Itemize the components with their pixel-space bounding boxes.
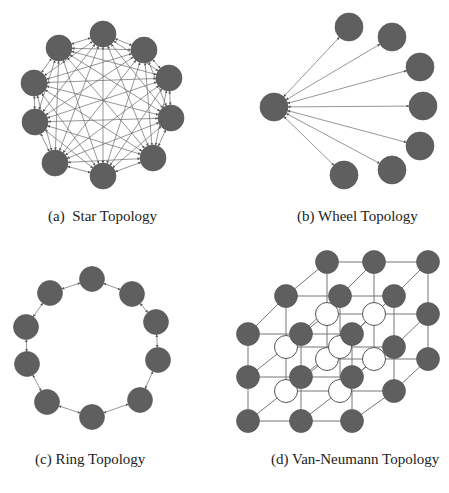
- edge: [33, 303, 43, 317]
- topology-figure: [0, 0, 449, 493]
- node: [21, 70, 47, 96]
- edge: [286, 114, 379, 164]
- edge: [59, 406, 80, 413]
- edge: [140, 303, 148, 312]
- node: [417, 348, 440, 371]
- edge: [145, 371, 153, 388]
- edge: [63, 60, 99, 163]
- node: [260, 93, 288, 121]
- node: [131, 37, 157, 63]
- edge: [104, 283, 121, 289]
- edge: [286, 44, 380, 100]
- node: [329, 285, 352, 308]
- edge: [68, 159, 140, 163]
- node: [15, 352, 40, 377]
- edge: [55, 61, 58, 150]
- node: [120, 282, 145, 307]
- node: [140, 145, 166, 171]
- node: [409, 92, 437, 120]
- node: [363, 251, 386, 274]
- node: [46, 35, 72, 61]
- node: [146, 348, 171, 373]
- node: [275, 285, 298, 308]
- node: [378, 156, 406, 184]
- edge: [115, 162, 141, 171]
- node: [90, 21, 116, 47]
- node: [406, 132, 434, 160]
- node: [330, 161, 358, 189]
- edge: [33, 375, 41, 391]
- node: [237, 366, 260, 389]
- node: [383, 285, 406, 308]
- node: [290, 410, 313, 433]
- edge: [71, 38, 90, 44]
- edge: [104, 404, 128, 413]
- node: [237, 410, 260, 433]
- caption-wheel: (b) Wheel Topology: [297, 208, 418, 225]
- node: [90, 163, 116, 189]
- panel-wheel: [260, 13, 437, 189]
- node: [417, 251, 440, 274]
- hollow-node: [363, 348, 386, 371]
- node: [237, 323, 260, 346]
- edge: [42, 59, 52, 73]
- edge: [47, 78, 156, 82]
- node: [42, 150, 68, 176]
- edge: [284, 117, 334, 165]
- node: [406, 53, 434, 81]
- panel-star: [21, 21, 184, 189]
- panel-vonneumann: [237, 251, 440, 433]
- edge: [170, 91, 171, 105]
- edge: [157, 334, 158, 347]
- node: [341, 323, 364, 346]
- node: [144, 310, 169, 335]
- hollow-node: [363, 303, 386, 326]
- node: [316, 251, 339, 274]
- edge: [153, 60, 161, 69]
- node: [156, 65, 182, 91]
- edge: [47, 86, 159, 115]
- node: [38, 281, 63, 306]
- edge: [158, 130, 165, 146]
- node: [80, 267, 105, 292]
- caption-star: (a) Star Topology: [48, 208, 157, 225]
- node: [341, 366, 364, 389]
- edge: [62, 283, 80, 289]
- node: [14, 315, 39, 340]
- node: [158, 105, 184, 131]
- node: [290, 366, 313, 389]
- edge: [288, 71, 407, 104]
- edge: [68, 166, 91, 172]
- node: [80, 405, 105, 430]
- node: [383, 336, 406, 359]
- node: [341, 410, 364, 433]
- node: [335, 13, 363, 41]
- node: [290, 323, 313, 346]
- node: [417, 303, 440, 326]
- node: [35, 390, 60, 415]
- caption-ring: (c) Ring Topology: [35, 451, 145, 468]
- edge: [47, 82, 156, 118]
- node: [378, 23, 406, 51]
- edge: [115, 39, 132, 46]
- node: [128, 388, 153, 413]
- node: [383, 380, 406, 403]
- panel-ring: [14, 267, 171, 430]
- caption-vonneumann: (d) Van-Neumann Topology: [271, 451, 439, 468]
- edge: [284, 37, 340, 97]
- edge: [288, 106, 409, 107]
- node: [22, 109, 48, 135]
